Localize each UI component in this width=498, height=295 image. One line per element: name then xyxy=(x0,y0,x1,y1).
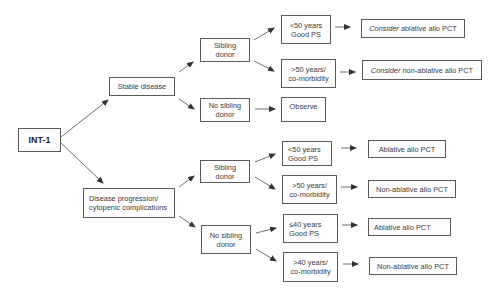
arrow-sib-to-young-top xyxy=(254,28,274,40)
arrow-nosib-to-old xyxy=(256,249,276,261)
arrow-sib-to-old-bottom xyxy=(255,177,275,189)
arrow-stable-to-nosibling xyxy=(179,99,194,109)
node-progression-over50-label: >50 years/ co-morbidity xyxy=(289,181,329,199)
node-progression-no-sibling-donor: No sibling donor xyxy=(201,225,251,254)
node-stable-no-sibling-donor: No sibling donor xyxy=(200,98,250,122)
consider-prefix: Consider xyxy=(369,24,399,33)
node-stable-sibling-donor-label: Sibling donor xyxy=(214,41,236,59)
node-progression-over40-label: >40 years/ co-morbidity xyxy=(290,258,330,276)
node-consider-nonablative: Consider non-ablative allo PCT xyxy=(362,60,482,80)
node-int1: INT-1 xyxy=(18,128,61,152)
node-nonablative-allo-pct-2: Non-ablative allo PCT xyxy=(369,257,457,275)
arrow-int1-to-stable xyxy=(61,100,108,137)
treatment-decision-diagram: INT-1 Stable disease Disease progression… xyxy=(0,0,498,295)
nonablative-allo-pct-label: Non-ablative allo PCT xyxy=(377,262,449,271)
nonablative-allo-pct-label: Non-ablative allo PCT xyxy=(376,185,448,194)
node-progression-no-sibling-donor-label: No sibling donor xyxy=(210,231,242,249)
arrow-int1-to-progression xyxy=(61,143,103,183)
ablative-allo-pct-label: Ablative allo PCT xyxy=(379,145,436,154)
node-stable-over50-comorbidity: >50 years/ co-morbidity xyxy=(281,59,336,88)
arrow-progression-to-sibling xyxy=(179,176,194,187)
node-ablative-allo-pct-1: Ablative allo PCT xyxy=(368,140,446,158)
node-consider-ablative: Consider ablative allo PCT xyxy=(361,19,465,38)
node-progression-sibling-donor-label: Sibling donor xyxy=(214,163,236,181)
node-observe-label: Observe xyxy=(290,102,318,111)
consider-nonablative-text: non-ablative allo PCT xyxy=(400,66,473,75)
node-progression-under40-good-ps: ≤40 years Good PS xyxy=(283,214,338,243)
ablative-allo-pct-label: Ablative allo PCT xyxy=(374,223,431,232)
node-ablative-allo-pct-2: Ablative allo PCT xyxy=(368,218,451,236)
node-progression-over50-comorbidity: >50 years/ co-morbidity xyxy=(282,175,337,204)
node-stable-sibling-donor: Sibling donor xyxy=(200,38,250,62)
node-stable-over50-label: >50 years/ co-morbidity xyxy=(288,65,328,83)
node-int1-label: INT-1 xyxy=(28,136,50,145)
node-progression-under50-good-ps: <50 years Good PS xyxy=(282,141,332,166)
node-nonablative-allo-pct-1: Non-ablative allo PCT xyxy=(368,180,456,198)
consider-prefix: Consider xyxy=(371,66,401,75)
arrow-nosib-to-young xyxy=(256,228,276,233)
node-stable-no-sibling-donor-label: No sibling donor xyxy=(209,101,241,119)
node-disease-progression: Disease progression/ cytopenic complicat… xyxy=(83,188,175,218)
node-stable-disease: Stable disease xyxy=(109,77,175,96)
node-stable-under50-label: <50 years Good PS xyxy=(290,21,323,39)
node-progression-sibling-donor: Sibling donor xyxy=(200,160,250,183)
arrow-progression-to-nosibling xyxy=(179,216,195,227)
node-disease-progression-label: Disease progression/ cytopenic complicat… xyxy=(89,194,167,212)
node-stable-disease-label: Stable disease xyxy=(118,82,166,91)
node-progression-under50-label: <50 years Good PS xyxy=(288,145,321,163)
consider-ablative-text: ablative allo PCT xyxy=(399,24,457,33)
arrow-stable-to-sibling xyxy=(179,62,193,72)
arrow-sib-to-young-bottom xyxy=(255,154,275,162)
node-stable-under50-good-ps: <50 years Good PS xyxy=(281,15,331,44)
node-progression-under40-label: ≤40 years Good PS xyxy=(289,220,321,238)
arrow-sib-to-old-top xyxy=(254,61,274,71)
node-observe: Observe xyxy=(281,97,326,122)
node-progression-over40-comorbidity: >40 years/ co-morbidity xyxy=(283,252,338,282)
